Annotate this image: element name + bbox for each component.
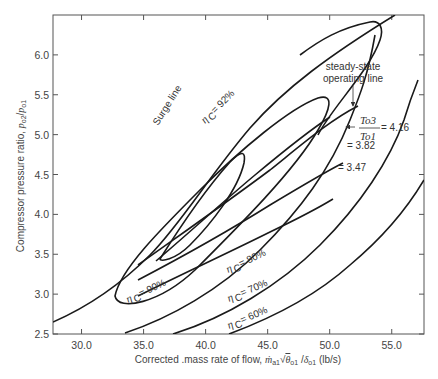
eta-60-label: η C = 60% bbox=[225, 303, 270, 334]
steady-state-label-line2: operating line bbox=[323, 73, 383, 84]
eta-value: = 90% bbox=[137, 277, 168, 299]
eta-value: = 92% bbox=[209, 87, 237, 115]
eta-92-label: η C = 92% bbox=[198, 87, 239, 128]
y-tick-label: 5.0 bbox=[34, 129, 49, 141]
y-tick-label: 3.5 bbox=[34, 248, 49, 260]
t-ratio-value-416: = 4.16 bbox=[381, 122, 410, 133]
y-tick-label: 4.5 bbox=[34, 169, 49, 181]
y-axis-title: Compressor pressure ratio, po2/po1 bbox=[15, 100, 27, 252]
x-tick-label: 50.0 bbox=[319, 339, 340, 351]
surge-line-label: Surge line bbox=[150, 83, 183, 127]
efficiency-contour-90 bbox=[115, 97, 329, 304]
y-tick-label: 2.5 bbox=[34, 328, 49, 340]
eta-value: = 60% bbox=[238, 304, 269, 325]
steady-state-label-line1: steady-state bbox=[326, 61, 381, 72]
eta-value: = 80% bbox=[237, 247, 268, 269]
x-tick-label: 45.0 bbox=[257, 339, 278, 351]
y-tick-label: 4.0 bbox=[34, 208, 49, 220]
compressor-map-chart: 30.035.040.045.050.055.0 2.53.03.54.04.5… bbox=[0, 0, 438, 379]
temperature-ratio-label: To3 To1 = 4.16 bbox=[346, 114, 410, 142]
y-tick-label: 5.5 bbox=[34, 89, 49, 101]
x-tick-label: 55.0 bbox=[382, 339, 403, 351]
y-tick-label: 3.0 bbox=[34, 288, 49, 300]
efficiency-contour-92 bbox=[160, 153, 244, 260]
y-tick-label: 6.0 bbox=[34, 49, 49, 61]
t-ratio-value-382: = 3.82 bbox=[347, 140, 376, 151]
x-axis-title: Corrected .mass rate of flow, ṁa1√θo1 /δ… bbox=[135, 354, 341, 366]
eta-90-label: η C = 90% bbox=[124, 276, 169, 308]
eta-value: = 70% bbox=[238, 277, 269, 298]
x-tick-label: 30.0 bbox=[71, 339, 92, 351]
t-ratio-value-347: = 3.47 bbox=[338, 162, 367, 173]
x-tick-label: 35.0 bbox=[133, 339, 154, 351]
t-ratio-numerator: To3 bbox=[360, 114, 377, 126]
x-tick-label: 40.0 bbox=[195, 339, 216, 351]
